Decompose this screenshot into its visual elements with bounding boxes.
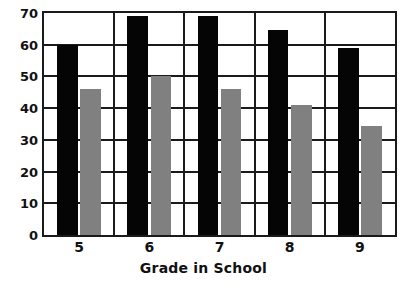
x-tick-label-7: 7: [215, 240, 225, 254]
bar-series-grey-grade-6: [151, 76, 172, 235]
group-separator-9: [324, 13, 326, 235]
bar-series-black-grade-7: [198, 16, 219, 235]
bar-series-grey-grade-7: [221, 89, 242, 235]
x-tick-label-5: 5: [74, 240, 84, 254]
gridline-y-60: [44, 44, 395, 46]
bar-series-black-grade-8: [268, 30, 289, 235]
bar-series-grey-grade-9: [361, 126, 382, 235]
plot-area: [42, 11, 397, 237]
y-tick-label-0: 0: [4, 229, 38, 242]
x-axis-title: Grade in School: [0, 260, 407, 276]
y-tick-label-70: 70: [4, 7, 38, 20]
x-tick-label-6: 6: [144, 240, 154, 254]
group-separator-7: [183, 13, 185, 235]
bar-chart: 010203040506070 56789 Grade in School: [0, 0, 407, 290]
y-tick-label-20: 20: [4, 165, 38, 178]
x-axis: 56789: [42, 240, 397, 262]
y-tick-label-30: 30: [4, 133, 38, 146]
x-tick-label-9: 9: [355, 240, 365, 254]
group-separator-6: [113, 13, 115, 235]
bar-series-grey-grade-5: [80, 89, 101, 235]
y-tick-label-10: 10: [4, 197, 38, 210]
y-tick-label-50: 50: [4, 70, 38, 83]
y-tick-label-60: 60: [4, 38, 38, 51]
group-separator-8: [254, 13, 256, 235]
y-tick-label-40: 40: [4, 102, 38, 115]
bar-series-black-grade-5: [57, 45, 78, 235]
y-axis: 010203040506070: [0, 0, 38, 290]
x-tick-label-8: 8: [285, 240, 295, 254]
bar-series-grey-grade-8: [291, 105, 312, 235]
bar-series-black-grade-6: [127, 16, 148, 235]
bar-series-black-grade-9: [338, 48, 359, 235]
